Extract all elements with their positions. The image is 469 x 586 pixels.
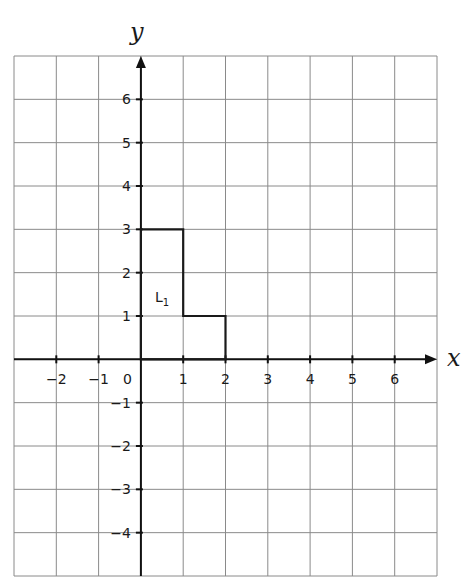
- shape-label: L1: [155, 289, 169, 308]
- y-tick-label: 5: [122, 135, 131, 151]
- y-tick-label: −3: [110, 481, 131, 497]
- shape-label-main: L: [155, 289, 163, 305]
- y-axis-arrow-icon: [136, 56, 146, 68]
- x-axis-arrow-icon: [425, 354, 437, 364]
- x-tick-label: 3: [263, 371, 272, 387]
- x-tick-label: 6: [390, 371, 399, 387]
- y-tick-label: −2: [110, 438, 131, 454]
- shape-label-subscript: 1: [163, 297, 169, 308]
- y-tick-label: 3: [122, 221, 131, 237]
- origin-label: 0: [123, 371, 132, 387]
- x-tick-label: −1: [88, 371, 109, 387]
- coordinate-grid: −2−1123456654321−1−2−3−4 x y 0 L1: [0, 0, 469, 586]
- x-tick-label: 5: [348, 371, 357, 387]
- y-axis-label: y: [129, 18, 144, 46]
- y-tick-label: 1: [122, 308, 131, 324]
- y-tick-label: 2: [122, 265, 131, 281]
- x-axis-label: x: [447, 344, 461, 372]
- x-tick-label: 4: [306, 371, 315, 387]
- y-tick-label: 4: [122, 178, 131, 194]
- y-tick-label: 6: [122, 91, 131, 107]
- x-tick-label: 2: [221, 371, 230, 387]
- x-tick-label: −2: [46, 371, 67, 387]
- x-tick-label: 1: [179, 371, 188, 387]
- y-tick-label: −4: [110, 525, 131, 541]
- y-tick-label: −1: [110, 395, 131, 411]
